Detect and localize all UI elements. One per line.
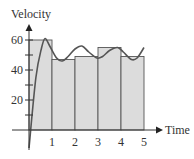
x-tick-label: 2 xyxy=(72,135,78,149)
x-tick-label: 4 xyxy=(118,135,124,149)
y-tick-label: 20 xyxy=(11,93,23,107)
x-axis-label: Time xyxy=(165,123,190,137)
y-axis-label: Velocity xyxy=(11,7,51,21)
y-tick-label: 60 xyxy=(11,33,23,47)
x-tick-label: 3 xyxy=(95,135,101,149)
bar-2-3 xyxy=(75,57,98,131)
bars-group xyxy=(29,40,144,130)
x-tick-label: 5 xyxy=(141,135,147,149)
velocity-time-chart: 204060 12345 Velocity Time xyxy=(0,0,194,159)
x-ticks-group: 12345 xyxy=(49,135,147,149)
bar-3-4 xyxy=(98,48,121,131)
y-axis-arrow-icon xyxy=(26,24,33,31)
x-tick-label: 1 xyxy=(49,135,55,149)
bar-4-5 xyxy=(121,57,144,131)
bar-1-2 xyxy=(52,60,75,131)
x-axis-arrow-icon xyxy=(156,127,163,134)
y-tick-label: 40 xyxy=(11,63,23,77)
